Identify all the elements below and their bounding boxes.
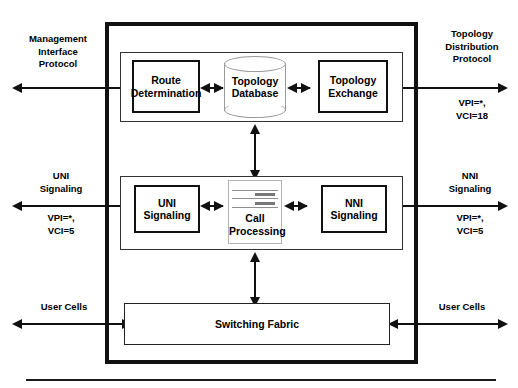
label-user-cells-right: User Cells: [424, 301, 500, 314]
signaling-fabric-arrow-up: [250, 252, 260, 262]
block-switching-fabric[interactable]: Switching Fabric: [124, 303, 390, 345]
label-nni-signaling-external: NNI Signaling: [430, 170, 510, 195]
block-route-determination[interactable]: Route Determination: [132, 60, 200, 113]
uni-external-arrow-out: [12, 201, 22, 211]
call-nni-arrow-right: [298, 201, 308, 211]
user-cells-right-arrow-out: [498, 319, 508, 329]
diagram-canvas: Management Interface Protocol Topology D…: [0, 0, 518, 388]
label-topology-distribution-vc: VPI=*, VCI=18: [430, 97, 514, 122]
server-indicator-1: [255, 193, 275, 196]
db-exchange-arrow-right: [301, 83, 311, 93]
routing-signaling-shaft: [254, 130, 256, 175]
route-db-arrow-left: [200, 83, 210, 93]
uni-call-arrow-left: [200, 201, 210, 211]
uni-call-arrow-right: [214, 201, 224, 211]
cylinder-top-ellipse: [224, 56, 286, 72]
label-nni-signaling-vc: VPI=*, VCI=5: [430, 212, 510, 237]
user-cells-right-line: [385, 323, 500, 325]
server-rule-2: [232, 198, 278, 199]
block-call-processing[interactable]: Call Processing: [228, 180, 282, 244]
block-topology-exchange[interactable]: Topology Exchange: [318, 60, 388, 113]
label-user-cells-left: User Cells: [26, 301, 102, 314]
topology-distribution-arrow-out: [498, 83, 508, 93]
call-nni-arrow-left: [284, 201, 294, 211]
management-interface-arrow-out: [12, 83, 22, 93]
block-nni-signaling[interactable]: NNI Signaling: [321, 185, 387, 233]
user-cells-left-arrow-out: [12, 319, 22, 329]
routing-signaling-arrow-up: [250, 124, 260, 134]
label-uni-signaling-vc: VPI=*, VCI=5: [22, 212, 100, 237]
server-rule-3: [232, 207, 278, 208]
topology-database-label: Topology Database: [224, 75, 286, 100]
label-management-interface-protocol: Management Interface Protocol: [14, 33, 102, 71]
server-indicator-2: [255, 202, 275, 205]
cylinder-bottom-ellipse: [224, 102, 286, 118]
label-uni-signaling-external: UNI Signaling: [22, 170, 100, 195]
route-db-arrow-right: [214, 83, 224, 93]
block-topology-database[interactable]: Topology Database: [224, 56, 286, 118]
db-exchange-arrow-left: [287, 83, 297, 93]
server-rule-1: [232, 190, 278, 191]
nni-external-arrow-out: [498, 201, 508, 211]
label-topology-distribution-protocol: Topology Distribution Protocol: [430, 28, 514, 66]
block-uni-signaling[interactable]: UNI Signaling: [134, 185, 200, 233]
footer-rule: [26, 379, 496, 381]
call-processing-label: Call Processing: [229, 212, 281, 237]
